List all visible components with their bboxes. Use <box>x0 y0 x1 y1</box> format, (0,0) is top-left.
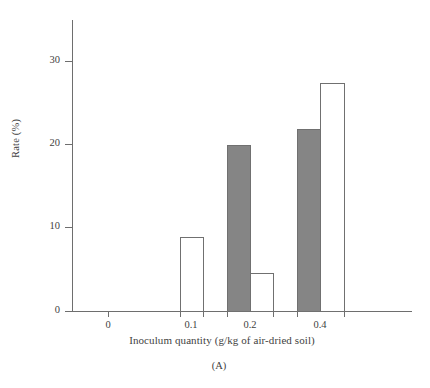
y-tick-0 <box>65 311 72 312</box>
y-tick-label-30: 30 <box>20 55 60 66</box>
x-axis-title-text: Inoculum quantity (g/kg of air-dried soi… <box>129 334 315 346</box>
y-tick-label-20: 20 <box>20 138 60 149</box>
y-tick-30 <box>65 61 72 62</box>
y-tick-10 <box>65 227 72 228</box>
figure-panel-a: 0 10 20 30 Rate (%) 0 0.1 0.2 0.4 Inocul… <box>0 0 430 388</box>
x-tick-label-0.2: 0.2 <box>225 320 275 331</box>
y-tick-label-10: 10 <box>20 221 60 232</box>
x-tick-0 <box>108 311 109 317</box>
bar-0.4-filled <box>297 129 321 312</box>
y-tick-20 <box>65 144 72 145</box>
y-tick-label-0: 0 <box>20 305 60 316</box>
x-axis-title: Inoculum quantity (g/kg of air-dried soi… <box>0 334 430 346</box>
bar-0.2-hollow <box>250 273 274 312</box>
x-tick-label-0: 0 <box>83 320 133 331</box>
panel-label: (A) <box>0 360 430 371</box>
y-axis-title: Rate (%) <box>10 119 21 158</box>
bar-0.2-filled <box>227 145 251 312</box>
bar-0.4-hollow <box>320 83 345 312</box>
bar-0.1-hollow <box>180 237 204 312</box>
x-tick-label-0.1: 0.1 <box>166 320 216 331</box>
x-tick-label-0.4: 0.4 <box>295 320 345 331</box>
y-axis-line <box>72 20 73 312</box>
panel-label-text: (A) <box>212 360 227 371</box>
